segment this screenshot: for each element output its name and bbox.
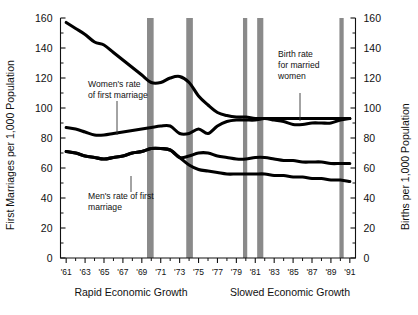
left-tick-label-80: 80 [41,132,53,144]
chart-figure: 020406080100120140160 020406080100120140… [0,0,418,315]
left-tick-label-0: 0 [47,252,53,264]
mens-rate-label: Men's rate of firstmarriage [88,191,154,212]
x-tick-label-'77: '77 [212,267,223,277]
left-tick-label-60: 60 [41,162,53,174]
recession-band-1 [147,18,154,258]
series-line-3 [66,148,350,163]
rapid-growth-caption: Rapid Economic Growth [74,286,187,298]
x-tick-label-'67: '67 [117,267,128,277]
left-tick-label-140: 140 [35,42,53,54]
right-tick-label-120: 120 [364,72,382,84]
left-tick-label-120: 120 [35,72,53,84]
x-tick-label-'85: '85 [288,267,299,277]
captions-group: Rapid Economic GrowthSlowed Economic Gro… [74,286,350,298]
x-tick-label-'79: '79 [231,267,242,277]
x-axis-ticks: '61'63'65'67'69'71'73'75'77'79'81'83'85'… [61,258,356,277]
right-tick-label-140: 140 [364,42,382,54]
left-tick-label-100: 100 [35,102,53,114]
left-tick-label-20: 20 [41,222,53,234]
x-tick-label-'65: '65 [98,267,109,277]
x-tick-label-'81: '81 [250,267,261,277]
birth-rate-label-line-2: for married [278,60,320,70]
birth-rate-label-line-1: Birth rate [278,49,313,59]
x-tick-label-'61: '61 [61,267,72,277]
right-tick-label-160: 160 [364,12,382,24]
series-group [66,23,350,182]
x-tick-label-'75: '75 [193,267,204,277]
womens-rate-label-line-2: of first marriage [88,90,148,100]
y-axis-title: First Marriages per 1,000 Population [4,60,16,230]
right-tick-label-20: 20 [364,222,376,234]
x-tick-label-'83: '83 [269,267,280,277]
right-tick-label-0: 0 [364,252,370,264]
slowed-growth-caption: Slowed Economic Growth [230,286,350,298]
mens-rate-label-line-2: marriage [88,202,122,212]
x-tick-label-'91: '91 [344,267,355,277]
marriage-birth-rate-line-chart: 020406080100120140160 020406080100120140… [0,0,418,315]
birth-rate-label: Birth ratefor marriedwomen [277,49,320,81]
x-tick-label-'73: '73 [174,267,185,277]
right-tick-label-60: 60 [364,162,376,174]
recession-band-4 [257,18,263,258]
womens-rate-label-line-1: Women's rate [88,79,141,89]
recession-bands-group [147,18,344,258]
series-line-2 [66,119,350,136]
right-tick-label-100: 100 [364,102,382,114]
left-tick-label-40: 40 [41,192,53,204]
recession-band-2 [186,18,193,258]
series-line-1 [66,23,350,119]
right-tick-label-40: 40 [364,192,376,204]
y2-axis-title: Births per 1,000 Population [399,103,411,230]
x-tick-label-'89: '89 [325,267,336,277]
x-tick-label-'87: '87 [306,267,317,277]
birth-rate-label-line-3: women [277,71,306,81]
recession-band-5 [339,18,343,258]
mens-rate-label-line-1: Men's rate of first [88,191,154,201]
x-tick-label-'69: '69 [136,267,147,277]
right-tick-label-80: 80 [364,132,376,144]
womens-rate-label: Women's rateof first marriage [88,79,148,100]
x-tick-label-'63: '63 [80,267,91,277]
recession-band-3 [243,18,247,258]
x-tick-label-'71: '71 [155,267,166,277]
left-tick-label-160: 160 [35,12,53,24]
